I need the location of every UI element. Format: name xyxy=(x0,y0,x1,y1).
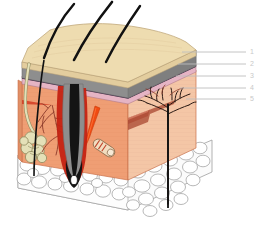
callout-number-2: 2 xyxy=(250,60,254,67)
callout-number-5: 5 xyxy=(250,95,254,102)
callout-number-3: 3 xyxy=(250,72,254,79)
callout-number-1: 1 xyxy=(250,48,254,55)
skin-cross-section-illustration xyxy=(0,0,261,246)
callout-number-4: 4 xyxy=(250,84,254,91)
skin-diagram-figure: 12345 xyxy=(0,0,261,246)
